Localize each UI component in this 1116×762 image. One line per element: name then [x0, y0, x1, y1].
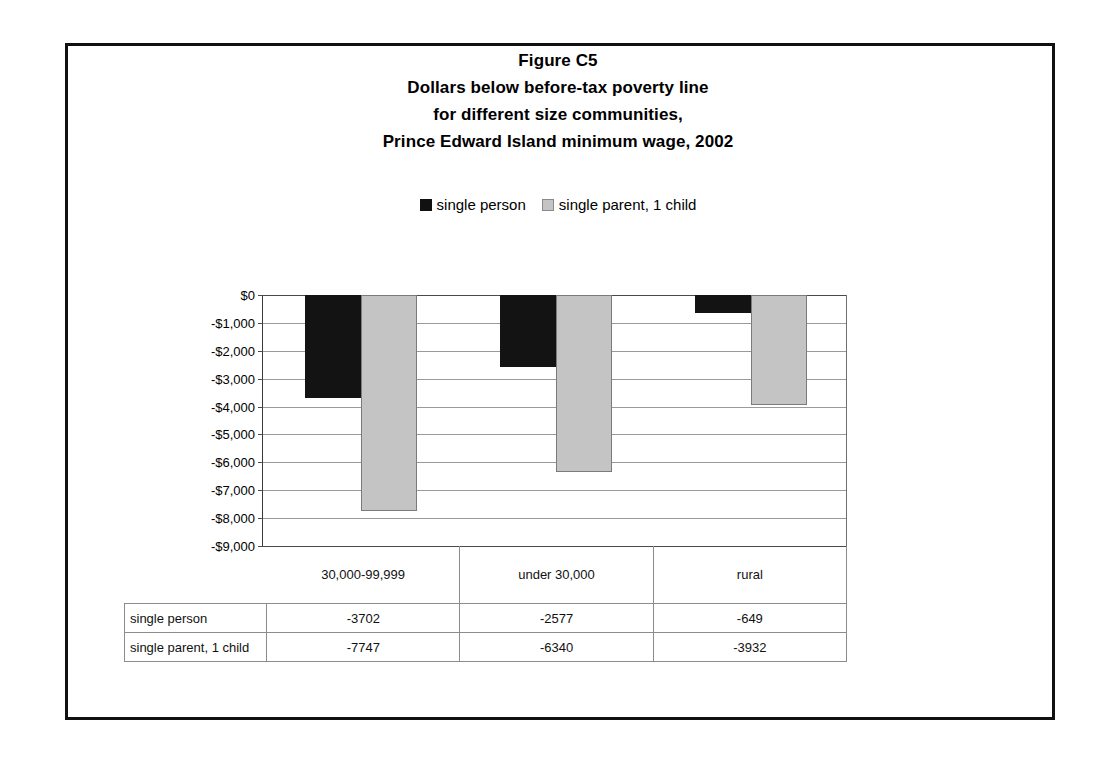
title-line-1: Figure C5	[0, 47, 1116, 74]
figure-title: Figure C5 Dollars below before-tax pover…	[0, 47, 1116, 155]
y-axis-tick-mark	[258, 407, 263, 408]
table-row-label-1: single parent, 1 child	[125, 633, 267, 662]
data-table-body: 30,000-99,999 under 30,000 rural single …	[125, 546, 847, 662]
table-cell-r0c1: -2577	[460, 604, 653, 633]
table-corner-cell	[125, 546, 267, 604]
y-axis-tick-mark	[258, 323, 263, 324]
bar-single-person-30-000-99-999	[305, 295, 361, 398]
y-axis-tick-mark	[258, 379, 263, 380]
y-axis-tick-mark	[258, 490, 263, 491]
y-axis-tick-mark	[258, 462, 263, 463]
table-cell-r1c1: -6340	[460, 633, 653, 662]
y-axis-tick-label: -$2,000	[211, 344, 255, 357]
title-line-3: for different size communities,	[0, 101, 1116, 128]
y-axis-tick-label: -$8,000	[211, 512, 255, 525]
table-cell-r1c0: -7747	[267, 633, 460, 662]
y-axis-tick-label: -$5,000	[211, 428, 255, 441]
chart-plot-area	[262, 295, 847, 546]
y-axis-tick-labels: $0-$1,000-$2,000-$3,000-$4,000-$5,000-$6…	[150, 295, 255, 546]
table-cell-r1c2: -3932	[653, 633, 846, 662]
gridline--4000	[263, 407, 846, 408]
y-axis-tick-mark	[258, 295, 263, 296]
legend-entry-single-parent-1-child: single parent, 1 child	[542, 197, 697, 212]
table-row: single parent, 1 child -7747 -6340 -3932	[125, 633, 847, 662]
legend-label-single-parent-1-child: single parent, 1 child	[559, 197, 697, 212]
gridline--8000	[263, 518, 846, 519]
gridline--6000	[263, 462, 846, 463]
bar-single-parent-1-child-30-000-99-999	[361, 295, 417, 511]
bar-single-parent-1-child-under-30-000	[556, 295, 612, 472]
bar-single-parent-1-child-rural	[751, 295, 807, 405]
chart-legend: single person single parent, 1 child	[0, 197, 1116, 212]
y-axis-tick-label: -$1,000	[211, 316, 255, 329]
bar-single-person-rural	[695, 295, 751, 313]
table-col-header-1: under 30,000	[460, 546, 653, 604]
y-axis-tick-label: -$4,000	[211, 400, 255, 413]
y-axis-tick-mark	[258, 351, 263, 352]
title-line-4: Prince Edward Island minimum wage, 2002	[0, 128, 1116, 155]
table-row-label-0: single person	[125, 604, 267, 633]
legend-label-single-person: single person	[437, 197, 526, 212]
table-row: single person -3702 -2577 -649	[125, 604, 847, 633]
table-cell-r0c2: -649	[653, 604, 846, 633]
gridline--5000	[263, 434, 846, 435]
chart-data-table: 30,000-99,999 under 30,000 rural single …	[124, 546, 847, 662]
gridline--7000	[263, 490, 846, 491]
legend-entry-single-person: single person	[420, 197, 526, 212]
table-header-row: 30,000-99,999 under 30,000 rural	[125, 546, 847, 604]
bar-single-person-under-30-000	[500, 295, 556, 367]
y-axis-tick-label: $0	[241, 289, 255, 302]
table-col-header-0: 30,000-99,999	[267, 546, 460, 604]
legend-swatch-icon-single-parent-1-child	[542, 199, 554, 211]
legend-swatch-icon-single-person	[420, 199, 432, 211]
table-cell-r0c0: -3702	[267, 604, 460, 633]
table-col-header-2: rural	[653, 546, 846, 604]
y-axis-tick-mark	[258, 434, 263, 435]
y-axis-tick-label: -$3,000	[211, 372, 255, 385]
y-axis-tick-mark	[258, 518, 263, 519]
y-axis-tick-label: -$7,000	[211, 484, 255, 497]
title-line-2: Dollars below before-tax poverty line	[0, 74, 1116, 101]
y-axis-tick-label: -$6,000	[211, 456, 255, 469]
